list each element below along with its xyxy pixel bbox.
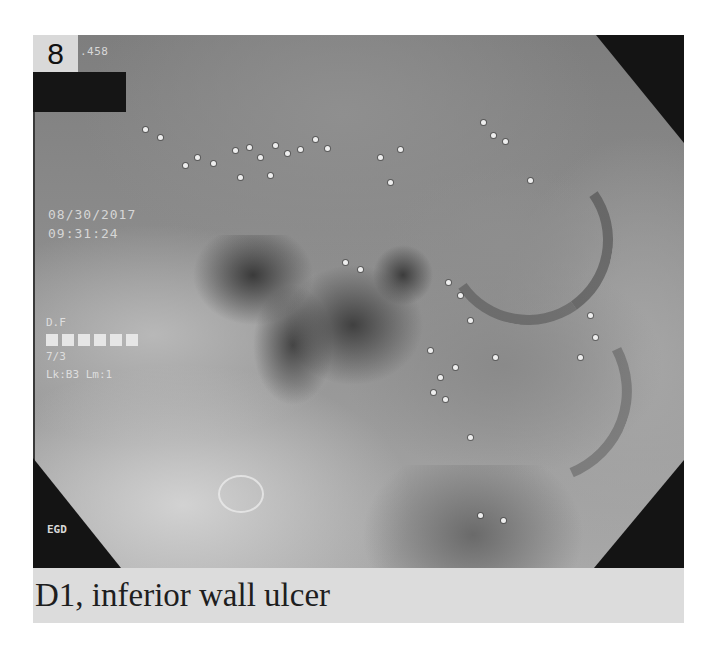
bubble — [458, 293, 463, 298]
capture-date: 08/30/2017 — [48, 207, 136, 222]
endoscopy-figure: 8 .458 08/30/2017 09:31:24 D.F 7/3 Lk:B3… — [33, 35, 684, 623]
corner-mask-top-right — [596, 35, 684, 143]
bubble — [268, 173, 273, 178]
id-fragment: .458 — [80, 45, 109, 58]
bubble — [398, 147, 403, 152]
lumen-shadow — [363, 465, 583, 568]
mucosal-ring — [218, 475, 264, 513]
settings-line-3: 7/3 — [46, 348, 138, 366]
redaction-box — [33, 72, 126, 112]
image-number: 8 — [33, 35, 78, 72]
bubble — [388, 180, 393, 185]
bubble — [453, 365, 458, 370]
indicator-block — [62, 334, 74, 346]
indicator-block — [46, 334, 58, 346]
bubble — [478, 513, 483, 518]
bubble — [143, 127, 148, 132]
bubble — [528, 178, 533, 183]
bubble — [446, 280, 451, 285]
bubble — [358, 267, 363, 272]
capture-time: 09:31:24 — [48, 226, 119, 241]
settings-line-4: Lk:B3 Lm:1 — [46, 366, 138, 384]
scope-settings-overlay: D.F 7/3 Lk:B3 Lm:1 — [46, 314, 138, 384]
bubble — [378, 155, 383, 160]
bubble — [501, 518, 506, 523]
bubble — [238, 175, 243, 180]
bubble — [588, 313, 593, 318]
bubble — [233, 148, 238, 153]
figure-caption: D1, inferior wall ulcer — [33, 568, 684, 623]
ulcer-region — [183, 235, 433, 405]
corner-mask-bottom-right — [594, 460, 684, 568]
bubble — [343, 260, 348, 265]
bubble — [183, 163, 188, 168]
bubble — [195, 155, 200, 160]
bubble — [247, 145, 252, 150]
settings-line-1: D.F — [46, 314, 138, 332]
indicator-block — [94, 334, 106, 346]
bubble — [443, 397, 448, 402]
corner-mask-bottom-left — [33, 458, 121, 568]
indicator-block — [78, 334, 90, 346]
bubble — [285, 151, 290, 156]
procedure-label: EGD — [47, 523, 67, 536]
settings-indicator-blocks — [46, 334, 138, 346]
bubble — [258, 155, 263, 160]
bubble — [428, 348, 433, 353]
bubble — [593, 335, 598, 340]
bubble — [325, 146, 330, 151]
bubble — [158, 135, 163, 140]
bubble — [578, 355, 583, 360]
indicator-block — [126, 334, 138, 346]
endoscopic-image: 8 .458 08/30/2017 09:31:24 D.F 7/3 Lk:B3… — [33, 35, 684, 568]
bubble — [211, 161, 216, 166]
bubble — [503, 139, 508, 144]
bubble — [493, 355, 498, 360]
bubble — [468, 318, 473, 323]
bubble — [273, 143, 278, 148]
indicator-block — [110, 334, 122, 346]
bubble — [491, 133, 496, 138]
bubble — [298, 147, 303, 152]
bubble — [438, 375, 443, 380]
bubble — [481, 120, 486, 125]
bubble — [313, 137, 318, 142]
bubble — [431, 390, 436, 395]
bubble — [468, 435, 473, 440]
